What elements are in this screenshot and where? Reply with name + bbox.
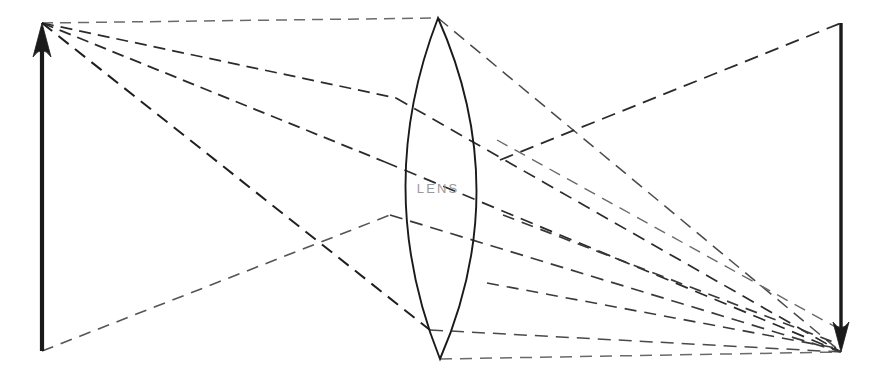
diagram-canvas: LENS (0, 0, 876, 377)
lens-ray-diagram: LENS (0, 0, 876, 377)
lens-label: LENS (417, 181, 459, 196)
